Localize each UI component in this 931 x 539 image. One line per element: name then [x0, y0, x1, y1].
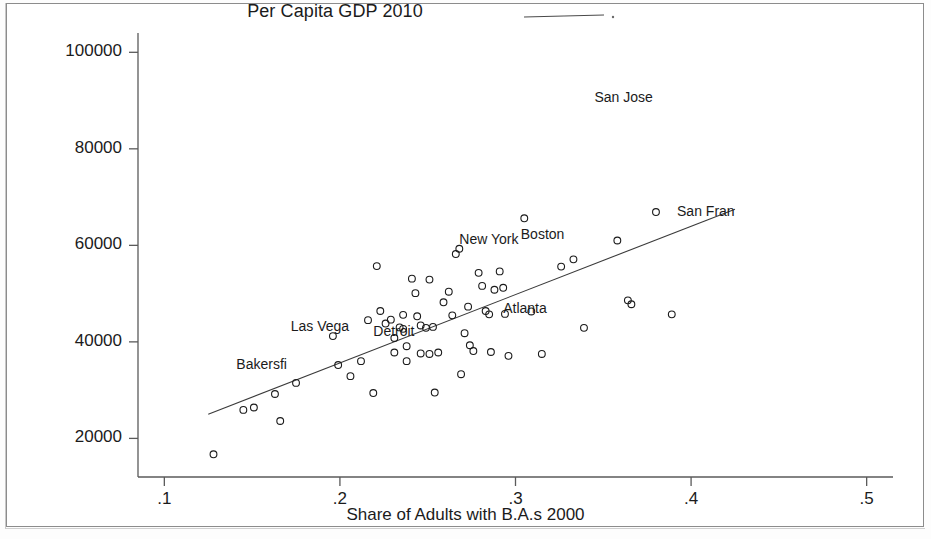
data-point — [521, 215, 528, 222]
legend-line-swatch — [524, 15, 604, 17]
data-point — [277, 418, 284, 425]
data-point — [465, 303, 472, 310]
y-axis-tick-label: 100000 — [65, 41, 122, 61]
point-label: Boston — [521, 226, 565, 242]
x-axis-ticks — [164, 477, 866, 486]
y-axis-tick-label: 80000 — [75, 138, 122, 158]
chart-canvas — [0, 0, 931, 539]
data-point — [400, 311, 407, 318]
data-point — [440, 299, 447, 306]
data-point — [409, 275, 416, 282]
data-point — [435, 349, 442, 356]
data-point — [558, 263, 565, 270]
y-axis-tick-label: 20000 — [75, 427, 122, 447]
data-point — [370, 390, 377, 397]
data-point — [491, 286, 498, 293]
data-point — [445, 288, 452, 295]
legend — [524, 15, 614, 18]
point-label: San Jose — [595, 89, 653, 105]
data-point — [538, 351, 545, 358]
point-label: Bakersfi — [236, 356, 287, 372]
data-point — [426, 276, 433, 283]
data-point — [431, 389, 438, 396]
point-label: Detroit — [373, 323, 414, 339]
point-label: San Fran — [677, 203, 735, 219]
data-points — [210, 209, 675, 458]
data-point — [391, 349, 398, 356]
data-point — [414, 313, 421, 320]
data-point — [377, 308, 384, 315]
y-axis-tick-label: 60000 — [75, 234, 122, 254]
data-point — [570, 256, 577, 263]
data-point — [272, 391, 279, 398]
y-axis-ticks — [129, 52, 138, 438]
data-point — [373, 263, 380, 270]
data-point — [500, 284, 507, 291]
data-point — [458, 371, 465, 378]
screenshot-root: Per Capita GDP 2010 20000400006000080000… — [0, 0, 931, 539]
data-point — [403, 358, 410, 365]
data-point — [412, 290, 419, 297]
data-point — [614, 237, 621, 244]
data-point — [475, 269, 482, 276]
data-point — [449, 312, 456, 319]
data-point — [488, 349, 495, 356]
data-point — [426, 351, 433, 358]
x-axis-title: Share of Adults with B.A.s 2000 — [0, 505, 931, 525]
point-label: New York — [459, 231, 518, 247]
data-point — [470, 348, 477, 355]
data-point — [505, 352, 512, 359]
point-label: Las Vega — [291, 318, 349, 334]
point-label: Atlanta — [503, 300, 547, 316]
data-point — [496, 268, 503, 275]
data-point — [358, 358, 365, 365]
data-point — [403, 343, 410, 350]
data-point — [347, 373, 354, 380]
scatter-plot: Per Capita GDP 2010 20000400006000080000… — [0, 0, 931, 539]
data-point — [250, 404, 257, 411]
y-axis-tick-label: 40000 — [75, 331, 122, 351]
data-point — [210, 451, 217, 458]
data-point — [581, 324, 588, 331]
data-point — [653, 209, 660, 216]
data-point — [365, 317, 372, 324]
data-point — [668, 311, 675, 318]
axes — [129, 33, 893, 486]
legend-marker-dot — [612, 16, 614, 18]
data-point — [417, 350, 424, 357]
data-point — [461, 330, 468, 337]
data-point — [479, 282, 486, 289]
data-point — [240, 407, 247, 414]
